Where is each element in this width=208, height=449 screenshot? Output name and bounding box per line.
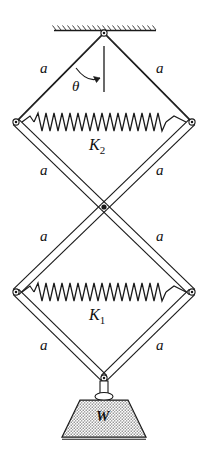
label-a-mid-lower-right: a — [156, 228, 164, 245]
angle-indicator — [76, 46, 104, 92]
joint-upper-left — [13, 119, 19, 125]
spring-upper-right-hook — [166, 116, 186, 122]
link-upper-right — [102, 30, 195, 125]
label-a-mid-upper-left: a — [40, 162, 48, 179]
link-upper-left — [14, 30, 107, 125]
link-mid-lower-left — [13, 204, 107, 294]
label-a-bottom-right: a — [156, 337, 164, 354]
joint-lower-right — [189, 289, 195, 295]
label-a-bottom-left: a — [40, 337, 48, 354]
label-theta: θ — [72, 78, 79, 95]
joint-lower-left — [13, 289, 19, 295]
link-mid-lower-right — [101, 204, 195, 294]
bottom-hanger-joint — [101, 375, 107, 381]
label-a-upper-left: a — [40, 60, 48, 77]
spring-upper-coils — [34, 113, 166, 131]
label-a-mid-lower-left: a — [40, 228, 48, 245]
label-k2-letter: K — [89, 136, 100, 153]
spring-upper-k2 — [22, 113, 186, 131]
middle-scissor-joint — [101, 204, 106, 209]
label-k1-letter: K — [89, 306, 100, 323]
link-mid-upper-right — [101, 119, 195, 209]
label-k2: K2 — [89, 136, 105, 156]
link-mid-upper-left — [13, 119, 107, 209]
spring-lower-k1 — [22, 283, 186, 301]
spring-lower-coils — [34, 283, 166, 301]
spring-upper-left-hook — [22, 116, 34, 122]
label-a-upper-right: a — [156, 60, 164, 77]
weight-collar — [95, 393, 113, 401]
figure-canvas — [0, 0, 208, 449]
label-a-mid-upper-right: a — [156, 162, 164, 179]
link-bottom-right — [101, 289, 194, 380]
link-bottom-left — [13, 289, 106, 380]
linkage-figure: a a θ K2 a a a a K1 a a W — [0, 0, 208, 449]
label-k2-subscript: 2 — [100, 144, 106, 156]
top-pivot-joint — [101, 30, 107, 36]
label-k1-subscript: 1 — [100, 314, 106, 326]
ceiling-hatching — [53, 26, 157, 31]
label-weight: W — [96, 408, 109, 425]
label-k1: K1 — [89, 306, 105, 326]
joint-upper-right — [189, 119, 195, 125]
